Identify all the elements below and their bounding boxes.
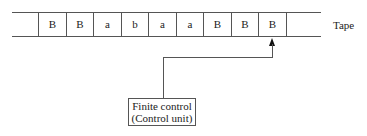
cell-separator	[286, 12, 287, 37]
tape-cell-3: b	[122, 19, 148, 30]
tape-cell-4: a	[149, 19, 176, 30]
control-label-line1: Finite control	[132, 100, 192, 112]
tape-cell-7: B	[232, 19, 258, 30]
tape-bottom-line	[12, 36, 321, 37]
finite-control-box: Finite control (Control unit)	[128, 98, 196, 126]
head-arrow-vertical	[272, 44, 273, 58]
tape-cell-1: B	[67, 19, 93, 30]
tape-cell-8: B	[259, 19, 286, 30]
connector-horizontal	[163, 57, 273, 58]
tape-cell-6: B	[204, 19, 231, 30]
connector-vertical	[163, 57, 164, 98]
tape-cell-0: B	[39, 19, 66, 30]
tape-top-line	[12, 12, 321, 13]
control-label-line2: (Control unit)	[132, 112, 193, 124]
tape-cell-5: a	[177, 19, 203, 30]
tape-cell-2: a	[94, 19, 121, 30]
tape-label: Tape	[333, 20, 354, 31]
